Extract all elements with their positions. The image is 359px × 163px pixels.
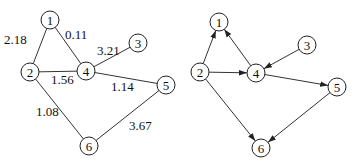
left-node-6: 6 [80,137,98,155]
node-label: 2 [197,65,204,80]
left-node-4: 4 [77,62,95,80]
node-label: 5 [163,78,170,93]
left-edge-weight-label: 0.11 [65,27,87,42]
left-edge-weight-label: 3.67 [129,118,152,133]
left-node-1: 1 [41,11,59,29]
right-edge-2-6 [206,79,256,141]
left-edge-weight-label: 1.08 [36,104,59,119]
node-label: 1 [47,13,54,28]
node-label: 2 [27,65,34,80]
node-label: 4 [83,64,90,79]
right-edge-3-4 [264,49,299,68]
right-node-4: 4 [247,64,265,82]
node-label: 3 [135,36,142,51]
right-node-3: 3 [298,36,316,54]
node-label: 3 [304,38,311,53]
right-node-6: 6 [252,139,270,157]
right-node-1: 1 [210,13,228,31]
node-label: 5 [334,80,341,95]
node-label: 6 [86,139,93,154]
right-edge-4-1 [224,29,250,65]
left-node-2: 2 [21,63,39,81]
right-edge-2-1 [203,30,216,63]
left-node-5: 5 [157,76,175,94]
left-edge-weight-label: 1.14 [111,79,134,94]
node-label: 6 [258,141,265,156]
node-label: 1 [216,15,223,30]
left-node-3: 3 [129,34,147,52]
right-node-2: 2 [191,63,209,81]
right-edge-4-5 [265,75,328,86]
left-edge-weight-label: 2.18 [4,32,27,47]
right-edge-5-6 [268,93,330,143]
right-node-5: 5 [328,78,346,96]
graph-diagram: 2.180.113.211.561.141.083.67 123456 1234… [0,0,359,163]
left-edge-weight-label: 3.21 [97,43,120,58]
right-edge-2-4 [209,72,247,73]
node-label: 4 [253,66,260,81]
left-edge-weight-label: 1.56 [51,72,74,87]
left-edge-1-2 [33,28,47,63]
